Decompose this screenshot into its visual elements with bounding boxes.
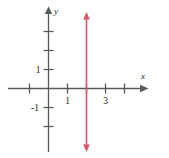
coordinate-plane-svg: x y 1 3 1 -1 (0, 0, 169, 158)
x-tick-label-3: 3 (103, 96, 108, 106)
y-tick-label--1: -1 (31, 103, 39, 113)
x-tick-label-1: 1 (65, 96, 70, 106)
vertical-line-arrowhead-top-icon (83, 12, 90, 20)
y-axis-label: y (53, 6, 58, 16)
x-axis-label: x (140, 71, 145, 81)
vertical-line-arrowhead-bottom-icon (83, 145, 90, 153)
y-tick-label-1: 1 (36, 65, 41, 75)
axes-group (8, 7, 149, 153)
graph-figure: x y 1 3 1 -1 (0, 0, 169, 158)
y-axis-arrowhead-icon (45, 7, 52, 15)
x-axis-arrowhead-icon (140, 85, 149, 92)
vertical-line-series (83, 12, 90, 152)
